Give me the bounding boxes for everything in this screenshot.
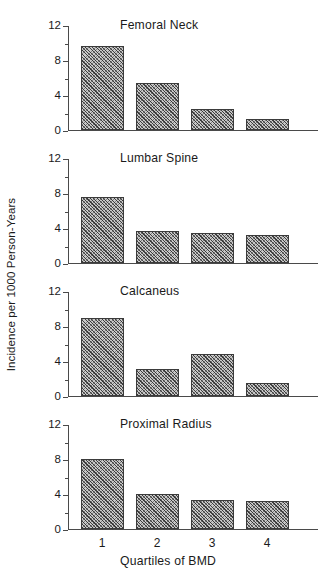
bar <box>191 109 234 130</box>
y-axis-tick-label: 8 <box>55 454 61 466</box>
y-axis-minor-tick <box>65 443 68 444</box>
bar <box>136 494 179 529</box>
y-axis-tick-label: 0 <box>55 125 61 137</box>
y-axis-minor-tick <box>65 177 68 178</box>
y-axis-tick-label: 12 <box>48 419 61 431</box>
y-axis-tick-label: 8 <box>55 188 61 200</box>
y-axis-tick-label: 8 <box>55 321 61 333</box>
y-axis-tick <box>63 327 68 328</box>
y-axis-tick-label: 0 <box>55 524 61 536</box>
y-axis-minor-tick <box>65 478 68 479</box>
bar <box>81 197 124 263</box>
y-axis-tick-label: 4 <box>55 90 61 102</box>
y-axis-tick <box>63 61 68 62</box>
bar <box>136 231 179 263</box>
y-axis-tick <box>63 96 68 97</box>
y-axis-line <box>68 292 69 397</box>
x-axis-tick-label: 3 <box>209 536 216 550</box>
y-axis-minor-tick <box>65 513 68 514</box>
plot-area: 04812 <box>68 425 318 530</box>
x-axis-line <box>68 529 318 530</box>
x-axis-line <box>68 396 318 397</box>
y-axis-minor-tick <box>65 247 68 248</box>
bar <box>191 500 234 529</box>
plot-area: 04812 <box>68 159 318 264</box>
y-axis-minor-tick <box>65 44 68 45</box>
y-axis-tick <box>63 26 68 27</box>
bar <box>81 459 124 529</box>
bar <box>246 501 289 529</box>
x-axis-line <box>68 263 318 264</box>
y-axis-tick <box>63 495 68 496</box>
bar <box>191 354 234 396</box>
y-axis-tick <box>63 530 68 531</box>
bar <box>136 369 179 396</box>
y-axis-tick-label: 4 <box>55 356 61 368</box>
y-axis-tick-label: 12 <box>48 20 61 32</box>
x-axis-tick-label: 2 <box>154 536 161 550</box>
x-axis-label: Quartiles of BMD <box>0 554 336 568</box>
y-axis-tick <box>63 292 68 293</box>
bar <box>246 119 289 130</box>
y-axis-minor-tick <box>65 380 68 381</box>
bar <box>136 83 179 130</box>
y-axis-tick-label: 0 <box>55 391 61 403</box>
bar <box>81 318 124 396</box>
y-axis-tick-label: 8 <box>55 55 61 67</box>
bar <box>246 383 289 396</box>
y-axis-tick <box>63 397 68 398</box>
y-axis-tick <box>63 264 68 265</box>
x-axis-tick-label: 4 <box>264 536 271 550</box>
y-axis-tick <box>63 229 68 230</box>
y-axis-tick <box>63 194 68 195</box>
y-axis-minor-tick <box>65 114 68 115</box>
y-axis-line <box>68 159 69 264</box>
y-axis-minor-tick <box>65 310 68 311</box>
y-axis-tick-label: 4 <box>55 223 61 235</box>
y-axis-tick-label: 0 <box>55 258 61 270</box>
y-axis-line <box>68 425 69 530</box>
y-axis-tick <box>63 131 68 132</box>
y-axis-minor-tick <box>65 345 68 346</box>
y-axis-tick-label: 12 <box>48 153 61 165</box>
y-axis-tick <box>63 362 68 363</box>
y-axis-label: Incidence per 1000 Person-Years <box>0 0 22 569</box>
y-axis-tick-label: 12 <box>48 286 61 298</box>
y-axis-minor-tick <box>65 79 68 80</box>
y-axis-minor-tick <box>65 212 68 213</box>
x-axis-line <box>68 130 318 131</box>
plot-area: 04812 <box>68 292 318 397</box>
bar <box>81 46 124 130</box>
plot-area: 04812 <box>68 26 318 131</box>
bar-chart-figure: Incidence per 1000 Person-Years Femoral … <box>0 0 336 569</box>
x-axis-tick-label: 1 <box>99 536 106 550</box>
bar <box>246 235 289 263</box>
y-axis-line <box>68 26 69 131</box>
y-axis-tick <box>63 425 68 426</box>
bar <box>191 233 234 263</box>
y-axis-tick-label: 4 <box>55 489 61 501</box>
y-axis-tick <box>63 159 68 160</box>
y-axis-tick <box>63 460 68 461</box>
